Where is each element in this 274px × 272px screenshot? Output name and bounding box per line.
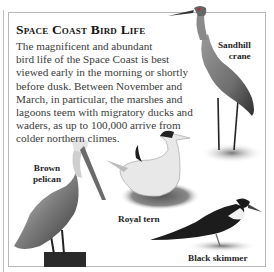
body-line: The magnificent and abundant (16, 40, 176, 53)
body-line: waders, as up to 100,000 arrive from (16, 119, 176, 132)
caption-line: crane (218, 51, 251, 62)
caption-line: Sandhill (218, 40, 251, 51)
caption-line: pelican (33, 174, 61, 185)
brown-pelican-caption: Brown pelican (33, 163, 61, 185)
body-line: viewed early in the morning or shortly (16, 66, 176, 79)
sandhill-crane-illustration (168, 6, 264, 163)
brown-pelican-illustration (14, 138, 106, 267)
body-line: bird life of the Space Coast is best (16, 53, 176, 66)
black-skimmer-caption: Black skimmer (188, 253, 247, 264)
royal-tern-caption: Royal tern (118, 214, 160, 225)
body-line: March, in particular, the marshes and (16, 93, 176, 106)
body-line: lagoons teem with migratory ducks and (16, 106, 176, 119)
panel-title: Space Coast Bird Life (16, 22, 145, 38)
caption-line: Royal tern (118, 214, 160, 225)
sandhill-crane-caption: Sandhill crane (218, 40, 251, 62)
panel-body-text: The magnificent and abundant bird life o… (16, 40, 176, 146)
caption-line: Black skimmer (188, 253, 247, 264)
body-line: before dusk. Between November and (16, 80, 176, 93)
caption-line: Brown (33, 163, 61, 174)
body-line: colder northern climes. (16, 132, 176, 145)
